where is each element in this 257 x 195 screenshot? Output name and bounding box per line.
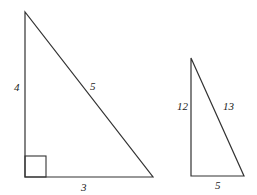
right-angle-marker	[25, 156, 46, 177]
label-hypotenuse: 13	[223, 100, 235, 112]
triangle-left-shape	[25, 12, 153, 177]
triangle-right-shape	[191, 58, 244, 176]
triangle-5-12-13: 12 13 5	[177, 58, 244, 191]
label-vertical-leg: 12	[177, 100, 189, 112]
label-vertical-leg: 4	[14, 81, 20, 93]
label-horizontal-leg: 5	[215, 179, 221, 191]
label-horizontal-leg: 3	[80, 181, 87, 193]
label-hypotenuse: 5	[90, 80, 96, 92]
triangle-3-4-5: 4 5 3	[14, 12, 153, 193]
diagram-canvas: 4 5 3 12 13 5	[0, 0, 257, 195]
